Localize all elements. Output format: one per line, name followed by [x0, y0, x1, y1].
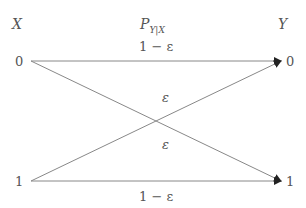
output-node-1: 1 — [286, 175, 294, 188]
edge-label-1-0: ε — [162, 91, 169, 104]
edge-label-1-1: 1 − ε — [139, 190, 173, 203]
edge-label-0-0: 1 − ε — [139, 40, 173, 53]
input-variable-label: X — [12, 17, 22, 31]
output-node-0: 0 — [286, 55, 294, 68]
channel-label-main: P — [140, 16, 149, 32]
channel-label: PY|X — [140, 17, 165, 35]
edge-label-0-1: ε — [162, 138, 169, 151]
input-node-1: 1 — [15, 175, 23, 188]
output-variable-label: Y — [278, 17, 287, 31]
input-node-0: 0 — [15, 55, 23, 68]
channel-label-sub: Y|X — [149, 25, 164, 35]
